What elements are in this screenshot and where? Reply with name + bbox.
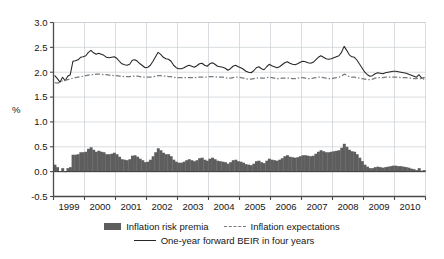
bar-inflation-risk-premia xyxy=(317,152,320,172)
bar-inflation-risk-premia xyxy=(128,159,131,171)
bar-inflation-risk-premia xyxy=(361,161,364,171)
x-tick-label: 2004 xyxy=(213,201,234,212)
y-tick-label: -0.5 xyxy=(31,191,47,202)
bar-inflation-risk-premia xyxy=(371,168,374,171)
bar-inflation-risk-premia xyxy=(211,158,214,172)
bar-inflation-risk-premia xyxy=(126,160,129,171)
bar-inflation-risk-premia xyxy=(214,159,217,171)
bar-inflation-risk-premia xyxy=(407,168,410,172)
bar-inflation-risk-premia xyxy=(141,160,144,171)
y-tick-label: 0.0 xyxy=(34,166,47,177)
bar-inflation-risk-premia xyxy=(309,156,312,171)
bar-inflation-risk-premia xyxy=(72,155,75,172)
bar-inflation-risk-premia xyxy=(229,162,232,171)
bar-inflation-risk-premia xyxy=(343,144,346,172)
bar-inflation-risk-premia xyxy=(335,151,338,172)
bar-inflation-risk-premia xyxy=(170,156,173,171)
y-tick-label: 2.5 xyxy=(34,42,47,53)
bar-inflation-risk-premia xyxy=(92,150,95,172)
bar-inflation-risk-premia xyxy=(110,154,113,172)
x-tick-label: 2010 xyxy=(399,201,420,212)
bar-inflation-risk-premia xyxy=(258,161,261,172)
bar-inflation-risk-premia xyxy=(255,161,258,171)
bar-inflation-risk-premia xyxy=(108,154,111,171)
x-tick-label: 2005 xyxy=(244,201,265,212)
bar-inflation-risk-premia xyxy=(387,167,390,172)
bar-inflation-risk-premia xyxy=(250,165,253,171)
bar-inflation-risk-premia xyxy=(87,149,90,172)
x-tick-label: 2000 xyxy=(89,201,110,212)
bar-inflation-risk-premia xyxy=(374,167,377,171)
bar-inflation-risk-premia xyxy=(325,152,328,171)
bar-inflation-risk-premia xyxy=(299,156,302,171)
bar-inflation-risk-premia xyxy=(382,168,385,172)
bar-inflation-risk-premia xyxy=(144,162,147,171)
bar-inflation-risk-premia xyxy=(351,151,354,171)
bar-inflation-risk-premia xyxy=(79,152,82,171)
bar-inflation-risk-premia xyxy=(364,165,367,172)
bar-inflation-risk-premia xyxy=(165,154,168,171)
y-tick-label: 1.0 xyxy=(34,116,47,127)
bar-inflation-risk-premia xyxy=(379,167,382,171)
y-tick-label: 3.0 xyxy=(34,17,47,28)
bar-inflation-risk-premia xyxy=(358,158,361,172)
bar-inflation-risk-premia xyxy=(271,160,274,172)
bar-inflation-risk-premia xyxy=(273,160,276,171)
bar-inflation-risk-premia xyxy=(167,154,170,171)
bar-inflation-risk-premia xyxy=(227,164,230,172)
bar-inflation-risk-premia xyxy=(245,164,248,171)
bar-inflation-risk-premia xyxy=(304,155,307,171)
bar-inflation-risk-premia xyxy=(389,166,392,171)
bar-inflation-risk-premia xyxy=(198,158,201,171)
legend-label-one-year-forward-beir: One-year forward BEIR in four years xyxy=(161,235,315,246)
bar-inflation-risk-premia xyxy=(136,157,139,172)
bar-inflation-risk-premia xyxy=(237,161,240,171)
legend-swatch-dashdot-line-icon xyxy=(224,226,246,227)
bar-inflation-risk-premia xyxy=(348,150,351,172)
bar-inflation-risk-premia xyxy=(376,167,379,172)
bar-inflation-risk-premia xyxy=(384,167,387,171)
bar-inflation-risk-premia xyxy=(340,148,343,172)
bar-inflation-risk-premia xyxy=(320,150,323,171)
legend-row-1: Inflation risk premia Inflation expectat… xyxy=(0,219,444,233)
bar-inflation-risk-premia xyxy=(118,157,121,172)
bar-inflation-risk-premia xyxy=(333,151,336,171)
bar-inflation-risk-premia xyxy=(392,166,395,172)
bar-inflation-risk-premia xyxy=(103,152,106,171)
bar-inflation-risk-premia xyxy=(113,153,116,172)
bar-inflation-risk-premia xyxy=(276,161,279,172)
bar-inflation-risk-premia xyxy=(224,162,227,171)
bar-inflation-risk-premia xyxy=(395,166,398,172)
x-tick-label: 2006 xyxy=(275,201,296,212)
bar-inflation-risk-premia xyxy=(134,155,137,171)
legend-label-inflation-expectations: Inflation expectations xyxy=(251,221,340,232)
bar-inflation-risk-premia xyxy=(402,167,405,172)
bar-inflation-risk-premia xyxy=(90,147,93,171)
bar-inflation-risk-premia xyxy=(314,154,317,172)
bar-inflation-risk-premia xyxy=(203,160,206,172)
legend-row-2: One-year forward BEIR in four years xyxy=(0,233,444,247)
bar-inflation-risk-premia xyxy=(185,160,188,171)
y-tick-label: 2.0 xyxy=(34,67,47,78)
bar-inflation-risk-premia xyxy=(252,164,255,172)
bar-inflation-risk-premia xyxy=(190,160,193,171)
bar-inflation-risk-premia xyxy=(159,150,162,171)
bar-inflation-risk-premia xyxy=(139,159,142,172)
bar-inflation-risk-premia xyxy=(123,160,126,172)
bar-inflation-risk-premia xyxy=(100,152,103,172)
bar-inflation-risk-premia xyxy=(188,159,191,171)
bar-inflation-risk-premia xyxy=(178,163,181,172)
bar-inflation-risk-premia xyxy=(247,165,250,172)
bar-inflation-risk-premia xyxy=(281,158,284,171)
bar-inflation-risk-premia xyxy=(296,157,299,171)
bar-inflation-risk-premia xyxy=(400,166,403,171)
bar-inflation-risk-premia xyxy=(216,161,219,172)
bar-inflation-risk-premia xyxy=(116,154,119,171)
bar-inflation-risk-premia xyxy=(162,153,165,172)
y-tick-label: 1.5 xyxy=(34,91,47,102)
y-tick-label: 0.5 xyxy=(34,141,47,152)
bar-inflation-risk-premia xyxy=(193,161,196,171)
y-axis-title: % xyxy=(12,104,21,115)
bar-inflation-risk-premia xyxy=(356,154,359,171)
bar-inflation-risk-premia xyxy=(322,151,325,171)
